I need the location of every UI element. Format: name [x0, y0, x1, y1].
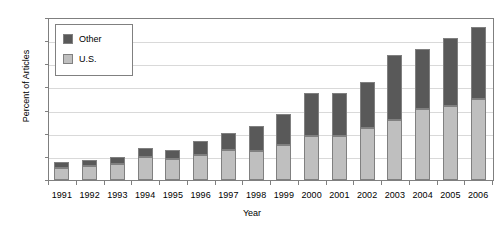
bar-segment-us	[443, 106, 458, 180]
bar-group	[471, 18, 486, 180]
x-tick-mark	[353, 181, 354, 185]
x-tick-mark	[131, 181, 132, 185]
x-tick-mark	[464, 181, 465, 185]
bar-segment-us	[304, 136, 319, 180]
bar-group	[249, 18, 264, 180]
bar-segment-other	[471, 27, 486, 99]
bar-segment-other	[276, 114, 291, 145]
bar-segment-us	[249, 151, 264, 180]
bar-segment-us	[82, 166, 97, 180]
bar-segment-other	[165, 150, 180, 159]
bar-segment-us	[387, 120, 402, 180]
bar-segment-other	[54, 162, 69, 169]
bar-group	[193, 18, 208, 180]
bar-segment-other	[415, 49, 430, 109]
bar-group	[221, 18, 236, 180]
bar-segment-us	[165, 159, 180, 180]
legend-label-us: U.S.	[79, 54, 97, 64]
x-axis-line	[48, 180, 494, 181]
x-tick-mark	[298, 181, 299, 185]
bar-group	[415, 18, 430, 180]
bar-segment-other	[193, 141, 208, 155]
bar-segment-other	[110, 157, 125, 164]
stacked-bar-chart: Percent of Articles 01234567 19911992199…	[0, 0, 504, 229]
x-tick-mark	[326, 181, 327, 185]
legend-item-other: Other	[63, 34, 102, 44]
y-axis-title: Percent of Articles	[21, 6, 31, 166]
bar-group	[138, 18, 153, 180]
bar-segment-us	[110, 164, 125, 180]
bar-segment-other	[304, 93, 319, 136]
bar-segment-us	[193, 155, 208, 180]
bar-group	[276, 18, 291, 180]
bar-segment-us	[276, 145, 291, 180]
bar-segment-other	[332, 93, 347, 136]
x-tick-mark	[48, 181, 49, 185]
bar-group	[304, 18, 319, 180]
bar-group	[165, 18, 180, 180]
bar-segment-other	[138, 148, 153, 157]
bar-segment-us	[415, 109, 430, 180]
bar-segment-other	[221, 133, 236, 150]
bar-segment-us	[332, 136, 347, 180]
bar-group	[332, 18, 347, 180]
x-tick-mark	[381, 181, 382, 185]
bar-segment-us	[138, 157, 153, 180]
x-tick-mark	[104, 181, 105, 185]
x-tick-mark	[492, 181, 493, 185]
bar-segment-other	[387, 55, 402, 120]
bar-segment-other	[82, 160, 97, 166]
x-tick-mark	[159, 181, 160, 185]
legend-item-us: U.S.	[63, 54, 97, 64]
legend-swatch-other	[63, 34, 73, 44]
legend-swatch-us	[63, 54, 73, 64]
x-tick-mark	[215, 181, 216, 185]
x-tick-mark	[187, 181, 188, 185]
bar-group	[360, 18, 375, 180]
bar-group	[387, 18, 402, 180]
x-tick-mark	[242, 181, 243, 185]
bar-segment-us	[471, 99, 486, 180]
chart-legend: Other U.S.	[55, 24, 133, 76]
x-tick-label: 2006	[458, 190, 498, 200]
x-axis-title: Year	[0, 208, 504, 218]
bar-group	[443, 18, 458, 180]
x-tick-mark	[270, 181, 271, 185]
x-tick-mark	[437, 181, 438, 185]
x-tick-mark	[76, 181, 77, 185]
bar-segment-other	[249, 126, 264, 151]
bar-segment-us	[54, 168, 69, 180]
bar-segment-other	[360, 82, 375, 128]
x-tick-mark	[409, 181, 410, 185]
legend-label-other: Other	[79, 34, 102, 44]
bar-segment-us	[221, 150, 236, 180]
bar-segment-us	[360, 128, 375, 180]
bar-segment-other	[443, 38, 458, 106]
